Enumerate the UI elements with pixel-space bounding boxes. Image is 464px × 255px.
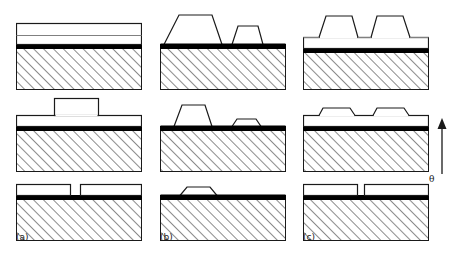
panel-a-bottom: [16, 183, 142, 241]
substrate-a-bottom: [17, 200, 142, 241]
trapezoid-right-c-top: [371, 16, 410, 38]
process-flow-figure: (a): [0, 0, 464, 255]
substrate-a-middle: [17, 131, 142, 172]
hard-mask-c-bottom: [304, 196, 429, 200]
theta-label: θ: [429, 174, 434, 184]
trapezoid-tall-b-top: [164, 15, 222, 45]
resist-pad-right-a-bottom: [81, 185, 142, 196]
substrate-c-top: [304, 53, 429, 90]
trapezoid-low-b-bottom: [180, 187, 217, 196]
panel-b-bottom: [160, 183, 286, 241]
resist-pad-right-c-bottom: [365, 185, 429, 196]
panel-b-middle: [160, 100, 286, 172]
theta-arrow: [432, 118, 452, 178]
panel-b-top: [160, 12, 286, 90]
substrate-c-middle: [304, 131, 429, 172]
substrate-b-top: [161, 49, 286, 90]
panel-c-bottom: [303, 183, 429, 241]
arrow-head-icon: [438, 118, 447, 129]
substrate-a-top: [17, 49, 142, 90]
resist-block-a-middle: [55, 99, 99, 116]
mound-right-c-middle: [373, 108, 409, 116]
column-label-b: (b): [160, 232, 173, 242]
resist-film-c-top: [304, 38, 429, 49]
panel-c-top: [303, 12, 429, 90]
trapezoid-left-c-top: [319, 16, 358, 38]
column-label-a: (a): [16, 232, 29, 242]
resist-film-a-middle: [17, 116, 142, 127]
trapezoid-short-b-top: [232, 26, 263, 45]
panel-c-middle: [303, 100, 429, 172]
column-label-c: (c): [303, 232, 315, 242]
trapezoid-medium-b-middle: [174, 105, 212, 127]
resist-film-c-middle: [304, 116, 429, 127]
resist-pad-left-c-bottom: [304, 185, 358, 196]
substrate-c-bottom: [304, 200, 429, 241]
substrate-b-bottom: [161, 200, 286, 241]
resist-layer-a-top: [17, 24, 142, 45]
trapezoid-low-b-middle: [232, 119, 261, 127]
resist-pad-left-a-bottom: [17, 185, 71, 196]
panel-a-middle: [16, 94, 142, 172]
hard-mask-a-bottom: [17, 196, 142, 200]
substrate-b-middle: [161, 131, 286, 172]
mound-left-c-middle: [319, 108, 355, 116]
panel-a-top: [16, 22, 142, 90]
